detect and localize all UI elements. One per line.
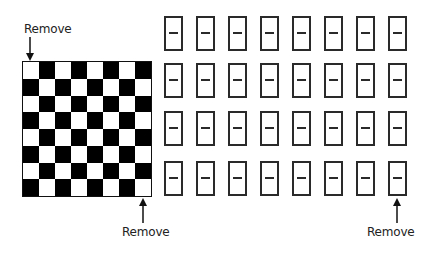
domino [388,63,407,98]
domino [228,16,247,51]
board-square [71,146,87,163]
board-square [103,129,119,146]
board-square [135,62,151,79]
board-square [39,62,55,79]
domino-divider [297,127,306,129]
domino [164,16,183,51]
domino [324,111,343,146]
domino [292,111,311,146]
board-square [55,129,71,146]
domino-divider [201,32,210,34]
board-square [39,179,55,196]
domino [292,16,311,51]
board-square [71,163,87,180]
domino [324,16,343,51]
domino-divider [169,79,178,81]
board-square [87,96,103,113]
domino [324,161,343,196]
board-square [119,79,135,96]
arrow-up-icon [391,197,403,223]
label-remove-top-left: Remove [24,22,72,36]
domino [228,111,247,146]
domino-divider [361,127,370,129]
domino-divider [297,32,306,34]
domino [388,16,407,51]
board-square [39,129,55,146]
domino-divider [233,177,242,179]
board-square [87,112,103,129]
domino-divider [361,32,370,34]
arrow-down-icon [24,37,36,62]
domino [260,16,279,51]
domino [356,161,375,196]
board-square [135,129,151,146]
board-square [23,112,39,129]
board-square [119,96,135,113]
domino-divider [169,177,178,179]
board-square [103,62,119,79]
board-square [39,96,55,113]
domino-divider [233,127,242,129]
board-square [119,129,135,146]
domino [260,63,279,98]
board-square [119,146,135,163]
domino-divider [265,177,274,179]
board-square [71,112,87,129]
board-square [87,62,103,79]
board-square [103,96,119,113]
board-square [23,146,39,163]
board-square [71,62,87,79]
domino [292,63,311,98]
domino-divider [201,127,210,129]
domino-divider [265,32,274,34]
domino-divider [233,32,242,34]
domino-divider [329,127,338,129]
domino [292,161,311,196]
domino-divider [393,32,402,34]
domino [228,161,247,196]
board-square [103,79,119,96]
domino [356,16,375,51]
board-square [135,179,151,196]
board-square [87,79,103,96]
board-square [71,96,87,113]
checkerboard [22,61,152,197]
board-square [71,129,87,146]
domino-divider [201,177,210,179]
domino [196,63,215,98]
domino-divider [201,79,210,81]
board-square [55,112,71,129]
board-square [135,163,151,180]
domino-divider [329,177,338,179]
domino-divider [361,177,370,179]
board-square [103,112,119,129]
board-square [55,146,71,163]
label-remove-board-bottom: Remove [122,225,170,239]
board-square [87,179,103,196]
board-square [103,179,119,196]
board-square [119,163,135,180]
board-square [23,79,39,96]
arrow-up-icon [137,197,149,223]
domino-divider [393,127,402,129]
domino [356,111,375,146]
domino-divider [393,79,402,81]
domino-divider [233,79,242,81]
board-square [39,146,55,163]
board-square [55,179,71,196]
domino [164,111,183,146]
domino [388,161,407,196]
domino-divider [297,177,306,179]
board-square [23,129,39,146]
domino [196,111,215,146]
board-square [103,146,119,163]
board-square [119,112,135,129]
board-square [55,163,71,180]
domino-divider [169,127,178,129]
board-square [103,163,119,180]
board-square [135,96,151,113]
domino-divider [297,79,306,81]
domino-divider [329,32,338,34]
board-square [71,79,87,96]
board-square [55,62,71,79]
